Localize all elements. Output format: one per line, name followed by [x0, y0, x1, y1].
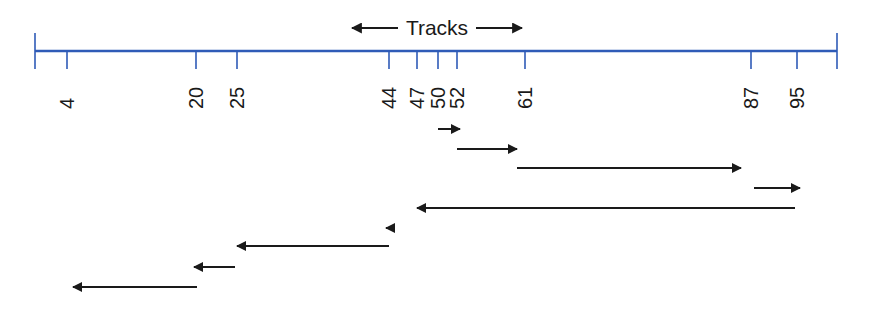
seek-sequence [73, 129, 800, 287]
tick-label: 61 [514, 87, 536, 109]
tick-label: 95 [786, 87, 808, 109]
tick-label: 20 [185, 87, 207, 109]
tick-label: 52 [446, 87, 468, 109]
tracks-title-group: Tracks [352, 16, 522, 39]
tick-label: 47 [406, 87, 428, 109]
tick-label: 87 [740, 87, 762, 109]
tracks-title: Tracks [406, 16, 468, 39]
disk-scheduling-diagram: Tracks 4202544475052618795 [0, 0, 870, 319]
tick-label: 44 [378, 87, 400, 109]
track-axis: 4202544475052618795 [35, 33, 837, 109]
tick-label: 25 [226, 87, 248, 109]
tick-label: 4 [56, 98, 78, 109]
